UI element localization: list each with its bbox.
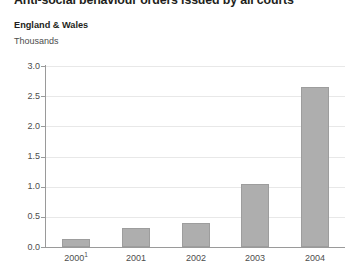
- chart-figure: Anti-social behaviour orders issued by a…: [0, 0, 349, 273]
- bar: [182, 223, 210, 247]
- y-axis-tick-label: 0.5: [14, 212, 40, 221]
- bar: [241, 184, 269, 247]
- bar: [62, 239, 90, 247]
- y-axis-tick-label: 1.0: [14, 182, 40, 191]
- y-axis-tick: [41, 66, 46, 67]
- y-axis-tick: [41, 157, 46, 158]
- plot-area: [46, 66, 345, 247]
- y-axis-tick-label: 2.5: [14, 92, 40, 101]
- x-axis-line: [45, 247, 345, 248]
- x-axis-tick-label: 2002: [166, 253, 226, 263]
- footnote-marker: 1: [84, 251, 88, 258]
- y-axis-tick-labels: 0.00.51.01.52.02.53.0: [10, 0, 40, 273]
- y-axis-tick: [41, 126, 46, 127]
- x-axis-tick-label: 20001: [46, 253, 106, 263]
- bar: [122, 228, 150, 247]
- y-axis-tick-label: 1.5: [14, 152, 40, 161]
- y-axis-tick: [41, 247, 46, 248]
- y-axis-tick-label: 0.0: [14, 243, 40, 252]
- x-axis-tick-label: 2003: [225, 253, 285, 263]
- y-axis-tick: [41, 187, 46, 188]
- x-axis-tick-label: 2001: [106, 253, 166, 263]
- x-axis-tick-label: 2004: [285, 253, 345, 263]
- gridline: [46, 66, 345, 67]
- bar: [301, 87, 329, 247]
- y-axis-tick: [41, 217, 46, 218]
- chart-title: Anti-social behaviour orders issued by a…: [14, 0, 344, 7]
- y-axis-tick: [41, 96, 46, 97]
- y-axis-tick-label: 3.0: [14, 62, 40, 71]
- y-axis-tick-label: 2.0: [14, 122, 40, 131]
